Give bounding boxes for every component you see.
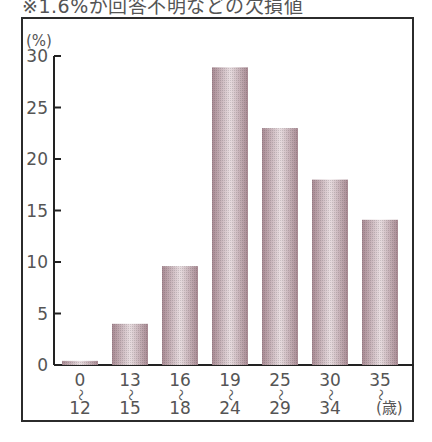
y-tick-label: 25 xyxy=(26,98,48,118)
bar-texture xyxy=(62,361,98,365)
x-tick-label-from: 13 xyxy=(119,370,141,390)
x-tick-label-from: 16 xyxy=(169,370,191,390)
x-tick-label-to: 18 xyxy=(169,398,191,418)
y-tick-label: 10 xyxy=(26,252,48,272)
x-tick-label-from: 25 xyxy=(269,370,291,390)
bar-texture xyxy=(112,324,148,365)
x-tick-label-from: 0 xyxy=(75,370,86,390)
x-tick-label-to: 29 xyxy=(269,398,291,418)
x-tick-label-to: 12 xyxy=(69,398,91,418)
bar-texture xyxy=(262,128,298,365)
y-tick-label: 20 xyxy=(26,149,48,169)
x-tick-label-from: 30 xyxy=(319,370,341,390)
bar-chart: (%) 051015202530 0～1213～1516～1819～2425～2… xyxy=(0,0,432,442)
y-tick-label: 0 xyxy=(37,355,48,375)
x-tick-label-to: 15 xyxy=(119,398,141,418)
bar-texture xyxy=(212,67,248,365)
bar-texture xyxy=(162,266,198,365)
bar-texture xyxy=(312,180,348,365)
bar-texture xyxy=(362,220,398,365)
y-tick-label: 5 xyxy=(37,304,48,324)
y-tick-label: 30 xyxy=(26,46,48,66)
x-tick-label-from: 35 xyxy=(369,370,391,390)
x-axis-unit-label: (歳) xyxy=(376,399,403,417)
y-tick-label: 15 xyxy=(26,201,48,221)
x-tick-label-from: 19 xyxy=(219,370,241,390)
x-tick-label-to: 34 xyxy=(319,398,341,418)
x-tick-label-to: 24 xyxy=(219,398,241,418)
